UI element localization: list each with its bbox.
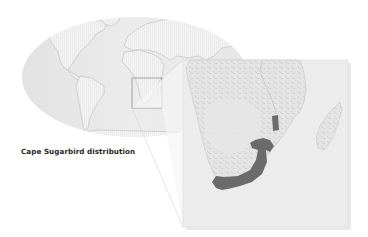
range-eastern-highlands	[272, 115, 279, 131]
map-caption: Cape Sugarbird distribution	[21, 147, 135, 156]
distribution-map-figure: Cape Sugarbird distribution	[0, 0, 368, 237]
map-graphic	[0, 0, 368, 237]
inset-map	[183, 60, 351, 230]
